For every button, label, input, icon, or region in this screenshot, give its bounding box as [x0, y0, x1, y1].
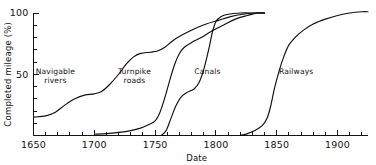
x-axis-tick-label: 1750 [143, 139, 168, 150]
series-label-railways: Railways [279, 67, 314, 76]
chart-series-labels: NavigableriversTurnpikeroadsCanalsRailwa… [36, 67, 314, 85]
y-axis-tick-label: 50 [16, 69, 29, 80]
x-axis-tick-label: 1850 [264, 139, 289, 150]
x-axis-tick-label: 1700 [82, 139, 107, 150]
series-label-roads: roads [124, 76, 146, 85]
series-label-rivers: rivers [44, 76, 66, 85]
y-axis-title: Completed mileage (%) [3, 22, 13, 127]
series-curve-navigable-rivers [34, 13, 265, 117]
y-axis-tick-label: 100 [10, 7, 29, 18]
x-axis-title: Date [186, 153, 207, 163]
series-label-canals: Canals [194, 67, 220, 76]
x-axis-tick-label: 1900 [325, 139, 350, 150]
chart-container: 16501700175018001850190050100 Navigabler… [0, 0, 376, 165]
x-axis-tick-label: 1650 [21, 139, 46, 150]
x-axis-tick-label: 1800 [203, 139, 228, 150]
line-chart: 16501700175018001850190050100 Navigabler… [0, 0, 376, 165]
